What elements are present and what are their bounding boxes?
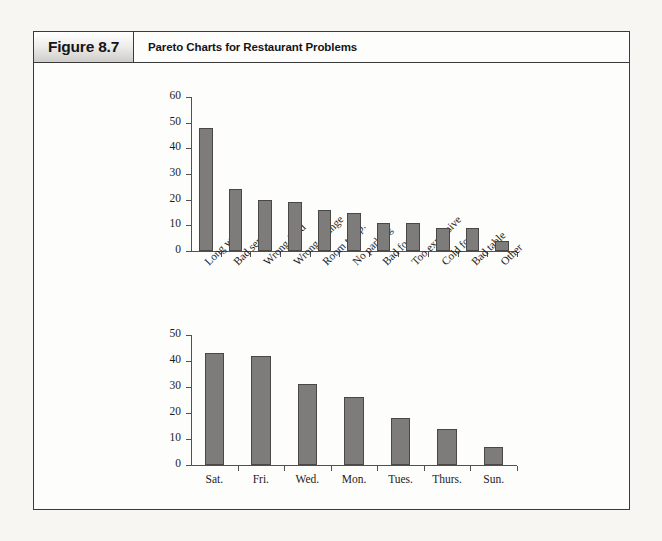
y-tick-label: 40 xyxy=(143,353,181,365)
bar xyxy=(484,447,504,465)
y-tick xyxy=(186,148,191,149)
bar xyxy=(437,429,457,465)
y-tick-label: 50 xyxy=(143,327,181,339)
bar xyxy=(377,223,391,251)
bar xyxy=(406,223,420,251)
y-tick xyxy=(186,225,191,226)
x-tick-label: Tues. xyxy=(377,473,424,485)
x-tick-label: Wed. xyxy=(284,473,331,485)
x-tick xyxy=(470,466,471,471)
plot-area-days: 01020304050Sat.Fri.Wed.Mon.Tues.Thurs.Su… xyxy=(139,329,539,499)
y-tick xyxy=(186,465,191,466)
y-tick xyxy=(186,123,191,124)
figure-title-label: Pareto Charts for Restaurant Problems xyxy=(148,41,357,53)
y-tick-label: 30 xyxy=(143,166,181,178)
bar xyxy=(199,128,213,251)
bar xyxy=(251,356,271,465)
plot-area-problems: 0102030405060Long waitBad serverWrong fo… xyxy=(139,91,539,336)
y-tick xyxy=(186,200,191,201)
y-tick-label: 20 xyxy=(143,192,181,204)
pareto-chart-problems: 0102030405060Long waitBad serverWrong fo… xyxy=(139,91,539,336)
y-tick xyxy=(186,439,191,440)
x-tick xyxy=(424,466,425,471)
x-tick xyxy=(517,466,518,471)
y-tick-label: 20 xyxy=(143,405,181,417)
bar xyxy=(436,228,450,251)
y-tick-label: 0 xyxy=(143,243,181,255)
y-tick xyxy=(186,361,191,362)
y-tick-label: 40 xyxy=(143,140,181,152)
x-tick xyxy=(331,466,332,471)
y-axis-line xyxy=(191,335,192,465)
x-tick xyxy=(284,466,285,471)
y-tick-label: 10 xyxy=(143,431,181,443)
pareto-chart-days: 01020304050Sat.Fri.Wed.Mon.Tues.Thurs.Su… xyxy=(139,329,539,499)
y-tick-label: 0 xyxy=(143,457,181,469)
y-tick xyxy=(186,174,191,175)
y-tick xyxy=(186,251,191,252)
y-axis-line xyxy=(191,97,192,251)
x-tick-label: Sun. xyxy=(470,473,517,485)
bar xyxy=(344,397,364,465)
figure-number-label: Figure 8.7 xyxy=(48,38,119,56)
figure-title-box: Pareto Charts for Restaurant Problems xyxy=(134,32,629,62)
y-tick-label: 50 xyxy=(143,115,181,127)
bar xyxy=(318,210,332,251)
x-tick-label: Sat. xyxy=(191,473,238,485)
y-tick-label: 30 xyxy=(143,379,181,391)
bar xyxy=(391,418,411,465)
figure-body: 0102030405060Long waitBad serverWrong fo… xyxy=(34,63,629,509)
y-tick xyxy=(186,335,191,336)
y-tick xyxy=(186,387,191,388)
figure-header: Figure 8.7 Pareto Charts for Restaurant … xyxy=(34,32,629,63)
bar xyxy=(298,384,318,465)
x-tick-label: Thurs. xyxy=(424,473,471,485)
y-tick-label: 60 xyxy=(143,89,181,101)
bar xyxy=(288,202,302,251)
bar xyxy=(205,353,225,465)
bar xyxy=(347,213,361,252)
x-axis-line xyxy=(191,465,517,466)
bar xyxy=(229,189,243,251)
x-tick xyxy=(377,466,378,471)
x-tick-label: Fri. xyxy=(238,473,285,485)
x-tick-label: Mon. xyxy=(331,473,378,485)
y-tick-label: 10 xyxy=(143,217,181,229)
y-tick xyxy=(186,413,191,414)
bar xyxy=(258,200,272,251)
bar xyxy=(466,228,480,251)
figure-number-box: Figure 8.7 xyxy=(34,32,134,62)
figure-frame: Figure 8.7 Pareto Charts for Restaurant … xyxy=(33,31,630,510)
x-tick xyxy=(238,466,239,471)
y-tick xyxy=(186,97,191,98)
